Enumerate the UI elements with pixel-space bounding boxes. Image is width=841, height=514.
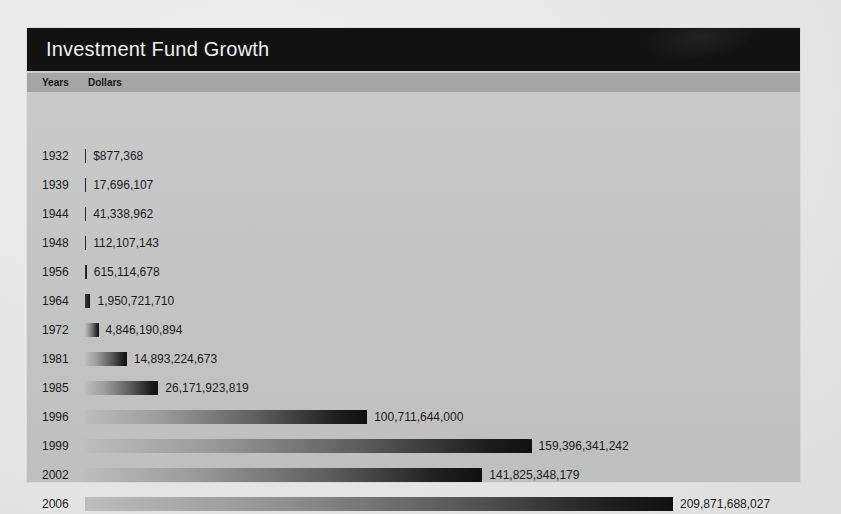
row-value-label: 100,711,644,000 [374,410,463,424]
title-bar: Investment Fund Growth [27,28,800,71]
chart-row: 1956615,114,678 [27,258,800,287]
chart-card-surface: Investment Fund Growth Years Dollars 193… [27,28,800,482]
value-bar [85,149,86,163]
chart-row: 1932$877,368 [27,142,800,171]
row-value-label: 615,114,678 [94,265,160,279]
value-bar [85,207,86,221]
value-bar [85,352,127,366]
row-year-label: 1939 [42,178,82,192]
chart-row: 1999159,396,341,242 [27,432,800,461]
row-value-label: 1,950,721,710 [97,294,174,308]
row-year-label: 1999 [42,439,82,453]
row-year-label: 1964 [42,294,82,308]
row-value-label: 141,825,348,179 [489,468,579,482]
value-bar [85,410,367,424]
row-year-label: 1985 [42,381,82,395]
value-bar [85,265,87,279]
chart-row: 2006209,871,688,027 [27,490,800,514]
row-year-label: 1981 [42,352,82,366]
chart-row: 2002141,825,348,179 [27,461,800,490]
value-bar [85,323,99,337]
row-year-label: 1948 [42,236,82,250]
chart-row: 1996100,711,644,000 [27,403,800,432]
row-year-label: 1932 [42,149,82,163]
row-value-label: 209,871,688,027 [680,497,770,511]
row-value-label: 112,107,143 [93,236,159,250]
value-bar [85,497,673,511]
chart-row: 198114,893,224,673 [27,345,800,374]
value-bar [85,178,86,192]
column-header-row: Years Dollars [27,73,800,92]
chart-row: 19641,950,721,710 [27,287,800,316]
row-value-label: 14,893,224,673 [134,352,217,366]
column-header-dollars: Dollars [88,77,122,88]
chart-row: 1948112,107,143 [27,229,800,258]
row-value-label: 17,696,107 [93,178,153,192]
row-value-label: 159,396,341,242 [539,439,629,453]
column-header-years: Years [42,77,69,88]
value-bar [85,381,158,395]
value-bar [85,439,532,453]
chart-card: Investment Fund Growth Years Dollars 193… [27,28,800,482]
row-year-label: 1996 [42,410,82,424]
row-year-label: 1956 [42,265,82,279]
row-year-label: 1972 [42,323,82,337]
row-year-label: 2006 [42,497,82,511]
chart-row: 198526,171,923,819 [27,374,800,403]
value-bar [85,468,482,482]
chart-row: 193917,696,107 [27,171,800,200]
row-year-label: 1944 [42,207,82,221]
bar-chart-plot: 1932$877,368193917,696,107194441,338,962… [27,92,800,482]
row-value-label: 26,171,923,819 [165,381,248,395]
chart-row: 19724,846,190,894 [27,316,800,345]
page-title: Investment Fund Growth [46,38,269,61]
row-year-label: 2002 [42,468,82,482]
row-value-label: 4,846,190,894 [106,323,183,337]
value-bar [85,294,90,308]
row-value-label: $877,368 [93,149,143,163]
chart-row: 194441,338,962 [27,200,800,229]
value-bar [85,236,86,250]
title-bar-glare [637,28,762,68]
row-value-label: 41,338,962 [93,207,153,221]
